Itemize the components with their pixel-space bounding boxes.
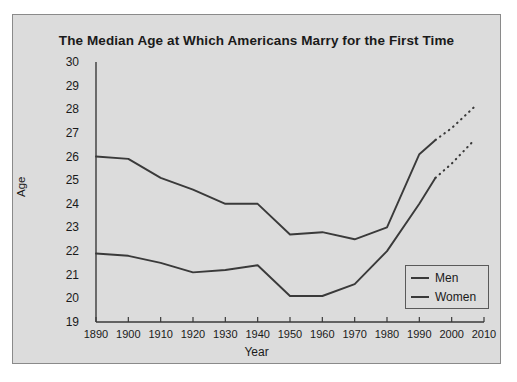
chart-panel: The Median Age at Which Americans Marry … [12, 14, 501, 364]
legend-label-women: Women [435, 291, 476, 303]
legend-item-women: Women [411, 288, 476, 306]
line-women-projection [436, 140, 475, 178]
legend-swatch-men-icon [411, 277, 429, 279]
chart-plot-area [13, 15, 502, 365]
line-men [96, 140, 436, 239]
line-women [96, 178, 436, 296]
legend-label-men: Men [435, 272, 458, 284]
line-men-projection [436, 107, 475, 140]
legend-item-men: Men [411, 269, 458, 287]
legend-swatch-women-icon [411, 296, 429, 298]
chart-legend: Men Women [405, 265, 489, 309]
